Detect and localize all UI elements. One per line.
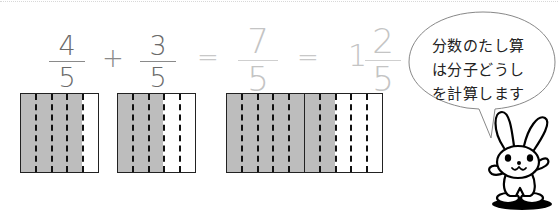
speech-line: は分子どうし [426,58,530,82]
shaded-part [35,94,51,172]
shaded-part [132,94,148,172]
mixed-fraction-part: 2 5 [363,25,403,96]
shaded-part [51,94,67,172]
numerator: 4 [47,32,87,59]
shaded-part [241,94,257,172]
equals-sign-1: = [197,44,219,70]
speech-line: を計算します [426,82,530,106]
shaded-part [319,94,335,172]
whole-square [227,94,304,172]
rabbit-character-icon [478,108,558,212]
shaded-part [272,94,288,172]
equals-sign-2: = [297,44,319,70]
numerator: 2 [363,25,403,58]
shaded-part [305,94,319,172]
shaded-part [227,94,241,172]
denominator: 5 [47,64,87,91]
empty-part [163,94,179,172]
shaded-part [118,94,132,172]
area-model-three-fifths [117,93,196,173]
denominator: 5 [236,63,280,96]
numerator: 3 [138,32,178,59]
speech-bubble-text: 分数のたし算 は分子どうし を計算します [426,34,530,106]
fraction-four-fifths: 4 5 [47,32,87,91]
empty-part [179,94,195,172]
empty-part [335,94,351,172]
shaded-part [148,94,164,172]
area-model-seven-fifths [226,93,383,173]
empty-part [82,94,98,172]
shaded-part [21,94,35,172]
denominator: 5 [138,64,178,91]
partial-square [304,94,382,172]
speech-line: 分数のたし算 [426,34,530,58]
area-model-four-fifths [20,93,99,173]
top-dotted-rule [0,1,558,2]
plus-sign: + [102,45,124,71]
numerator: 7 [236,25,280,58]
shaded-part [288,94,304,172]
shaded-part [66,94,82,172]
empty-part [366,94,382,172]
empty-part [350,94,366,172]
fraction-three-fifths: 3 5 [138,32,178,91]
denominator: 5 [363,63,403,96]
fraction-seven-fifths: 7 5 [236,25,280,96]
shaded-part [257,94,273,172]
